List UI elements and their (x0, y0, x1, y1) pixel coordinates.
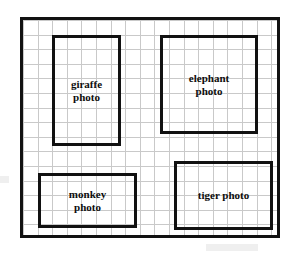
layout-board[interactable]: giraffe photo elephant photo monkey phot… (20, 17, 280, 238)
photo-box-giraffe-label: giraffe photo (71, 78, 102, 104)
scan-artifact-left (0, 176, 9, 183)
photo-box-monkey-label: monkey photo (69, 188, 106, 214)
photo-box-monkey[interactable]: monkey photo (38, 173, 137, 228)
photo-box-giraffe[interactable]: giraffe photo (52, 35, 121, 146)
scan-artifact-bottom (206, 244, 258, 251)
photo-box-elephant[interactable]: elephant photo (160, 35, 258, 134)
photo-box-tiger[interactable]: tiger photo (174, 161, 273, 230)
photo-box-tiger-label: tiger photo (198, 189, 249, 202)
photo-box-elephant-label: elephant photo (189, 72, 229, 98)
page-canvas: giraffe photo elephant photo monkey phot… (0, 0, 293, 256)
